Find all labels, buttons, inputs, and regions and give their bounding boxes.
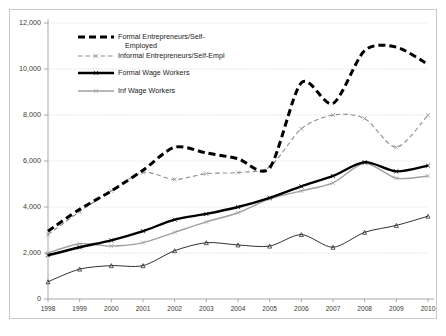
xtick-label: 2007 [326,305,341,312]
ytick-label: 12,000 [19,18,41,27]
xtick-label: 2005 [262,305,277,312]
xtick-label: 2000 [104,305,119,312]
xtick-label: 2003 [199,305,214,312]
series-path [48,216,428,282]
series-thin-dashed [46,113,430,237]
ytick-label: 2,000 [23,248,41,257]
xtick-label: 2009 [389,305,404,312]
line-chart: 02,0004,0006,0008,00010,00012,0001998199… [10,10,438,320]
series-thin-solid-black [46,214,430,284]
data-point-marker [363,116,367,120]
xtick-label: 2008 [357,305,372,312]
xtick-label: 2006 [294,305,309,312]
data-point-marker [299,127,303,131]
chart-legend: Formal Entrepreneurs/Self-EmployedInform… [78,32,225,95]
chart-frame: 02,0004,0006,0008,00010,00012,0001998199… [9,9,437,319]
ytick-label: 4,000 [23,202,41,211]
xtick-label: 2002 [167,305,182,312]
ytick-label: 6,000 [23,156,41,165]
xtick-label: 2004 [231,305,246,312]
xtick-label: 1999 [72,305,87,312]
series-path [48,162,428,255]
ytick-label: 10,000 [19,64,41,73]
xtick-label: 2001 [136,305,151,312]
ytick-label: 8,000 [23,110,41,119]
legend-label-0-cont: Employed [125,41,157,50]
legend-label-2: Formal Wage Workers [118,68,190,77]
xtick-label: 2010 [421,305,436,312]
series-path [48,114,428,234]
legend-label-0: Formal Entrepreneurs/Self- [118,32,205,41]
xtick-label: 1998 [41,305,56,312]
legend-label-1: Informal Entrepreneurs/Self-Empl [118,51,225,60]
legend-label-3: Inf Wage Workers [118,86,176,95]
ytick-label: 0 [37,294,41,303]
